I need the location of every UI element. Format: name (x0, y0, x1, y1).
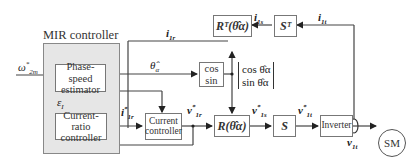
current-ratio-label-line2: controller (61, 132, 102, 143)
synchronous-motor: SM (378, 129, 406, 157)
cos-sin-vector: cos θ̂α sin θ̂α (238, 62, 274, 89)
v1t-label: v1t (347, 137, 357, 148)
estimator-label-line2: estimator (61, 84, 100, 95)
cos-sin-block: cos sin (199, 62, 224, 87)
s-transpose-label: Sᵀ (280, 20, 291, 33)
i1s-label: i1s (254, 12, 263, 23)
current-controller-line2: controller (145, 127, 182, 137)
current-ratio-controller-block: Current-ratio controller (55, 113, 107, 140)
cos-theta-label: cos θ̂α (242, 63, 270, 76)
rotation-label: R(θ̂α) (218, 120, 247, 133)
v1s-ref-label: v*1s (252, 105, 267, 116)
i1r-ref-label: i*1r (121, 107, 134, 118)
mir-controller-title: MIR controller (43, 29, 118, 42)
v1r-ref-label: v*1r (187, 105, 202, 116)
mir-control-block-diagram: MIR controller Phase-speed estimator Cur… (0, 0, 412, 162)
phase-speed-estimator-block: Phase-speed estimator (55, 64, 106, 92)
i1r-label: i1r (166, 28, 175, 39)
sin-theta-label: sin θ̂α (242, 76, 270, 89)
theta-hat-label: θ̂α (150, 60, 159, 71)
speed-ref-label: ω*2m (18, 62, 38, 73)
rotation-transpose-label: Rᵀ(θ̂α) (216, 20, 249, 33)
current-controller-line1: Current (149, 117, 178, 127)
current-ratio-label-line1: Current-ratio (56, 110, 106, 132)
inverter-block: Inverter (320, 115, 353, 137)
s-matrix-block: S (273, 115, 296, 137)
rotation-block: R(θ̂α) (214, 115, 250, 137)
cos-label: cos (205, 63, 219, 74)
v1t-ref-label: v*1t (298, 105, 312, 116)
inverter-label: Inverter (321, 121, 351, 131)
current-controller-block: Current controller (145, 113, 182, 140)
s-matrix-label: S (281, 120, 288, 133)
epsilon-label: εI (57, 97, 64, 108)
estimator-label-line1: Phase-speed (56, 61, 105, 83)
rotation-transpose-block: Rᵀ(θ̂α) (213, 15, 252, 37)
motor-label: SM (384, 137, 400, 149)
s-transpose-block: Sᵀ (274, 15, 297, 37)
sin-label: sin (205, 75, 217, 86)
i1t-label: i1t (318, 12, 327, 23)
